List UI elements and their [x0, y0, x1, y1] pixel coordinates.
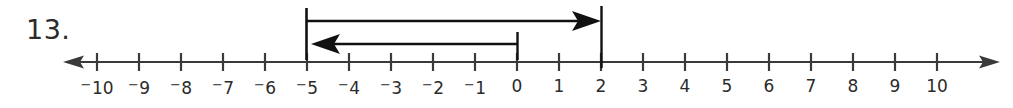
tick-label-pos9: 9	[890, 78, 901, 95]
raised-minus-sign: −	[254, 77, 265, 92]
raised-minus-sign: −	[296, 77, 307, 92]
tick-label-neg10: −10	[80, 78, 113, 97]
raised-minus-sign: −	[170, 77, 181, 92]
raised-minus-sign: −	[212, 77, 223, 92]
tick-label-neg7: −7	[212, 78, 234, 97]
tick-label-pos8: 8	[848, 78, 859, 95]
raised-minus-sign: −	[338, 77, 349, 92]
tick-label-pos0: 0	[512, 78, 523, 95]
tick-label-neg5: −5	[296, 78, 318, 97]
tick-label-neg1: −1	[464, 78, 486, 97]
number-line-graphic	[0, 0, 1013, 108]
tick-label-neg2: −2	[422, 78, 444, 97]
tick-label-pos3: 3	[638, 78, 649, 95]
tick-label-neg9: −9	[128, 78, 150, 97]
tick-label-pos10: 10	[926, 78, 948, 95]
number-line-figure: 13. −10−9−8−7−6−5−4−3−2−1012345678910	[0, 0, 1013, 108]
raised-minus-sign: −	[380, 77, 391, 92]
tick-label-pos2: 2	[596, 78, 607, 95]
tick-label-pos5: 5	[722, 78, 733, 95]
raised-minus-sign: −	[80, 77, 91, 92]
raised-minus-sign: −	[128, 77, 139, 92]
tick-label-neg8: −8	[170, 78, 192, 97]
tick-label-neg6: −6	[254, 78, 276, 97]
tick-label-pos6: 6	[764, 78, 775, 95]
raised-minus-sign: −	[422, 77, 433, 92]
tick-label-neg4: −4	[338, 78, 360, 97]
tick-label-pos1: 1	[554, 78, 565, 95]
tick-label-pos4: 4	[680, 78, 691, 95]
tick-label-pos7: 7	[806, 78, 817, 95]
tick-label-neg3: −3	[380, 78, 402, 97]
raised-minus-sign: −	[464, 77, 475, 92]
